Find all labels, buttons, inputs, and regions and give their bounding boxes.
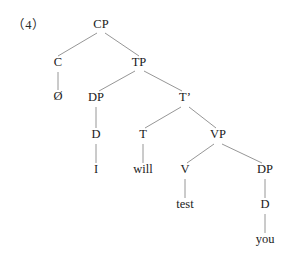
tree-node-tbar: T’ [179, 90, 191, 104]
tree-node-dpobj: DP [257, 162, 273, 176]
tree-node-c: C [54, 55, 62, 69]
tree-node-will: will [133, 162, 153, 176]
tree-edge-cp-to-tp [105, 33, 139, 56]
tree-nodes-group: CPCØTPDPDIT’TwillVPVtestDPDyou [53, 17, 275, 246]
tree-edge-tp-to-tbar [144, 71, 182, 91]
tree-node-dsubj: D [91, 127, 100, 141]
tree-node-dpsubj: DP [88, 90, 104, 104]
tree-node-you: you [256, 232, 276, 246]
tree-edge-vp-to-dpobj [222, 144, 262, 163]
tree-node-v: V [180, 162, 189, 176]
tree-node-vp: VP [210, 127, 226, 141]
tree-node-cp: CP [93, 17, 108, 31]
tree-edges-group [58, 33, 265, 233]
tree-edge-tbar-to-vp [189, 107, 216, 128]
tree-edge-vp-to-v [187, 144, 214, 163]
syntax-tree-diagram: CPCØTPDPDIT’TwillVPVtestDPDyou [0, 0, 292, 263]
tree-edge-cp-to-c [58, 33, 97, 56]
tree-node-i: I [94, 162, 98, 176]
tree-node-t: T [139, 127, 147, 141]
tree-node-dobj: D [260, 197, 269, 211]
tree-node-test: test [176, 197, 194, 211]
tree-node-tp: TP [132, 55, 147, 69]
figure-canvas: （4） CPCØTPDPDIT’TwillVPVtestDPDyou [0, 0, 292, 263]
tree-edge-tbar-to-t [145, 107, 181, 128]
tree-edge-tp-to-dpsubj [99, 71, 135, 91]
tree-node-cnull: Ø [53, 89, 62, 103]
